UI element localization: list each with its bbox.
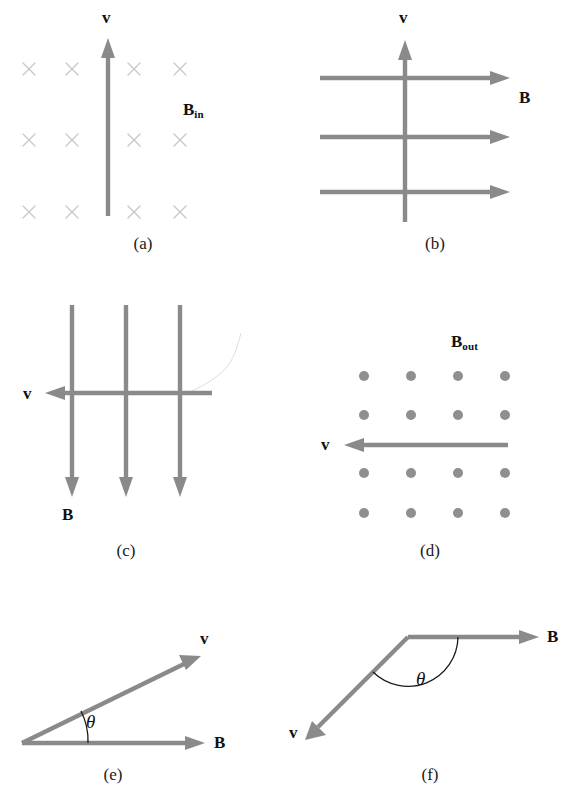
field-label-b: B xyxy=(547,627,558,647)
field-label-base: B xyxy=(451,332,462,351)
field-label-subscript: in xyxy=(194,108,204,120)
velocity-label-b: v xyxy=(399,8,408,28)
panel-e: v B θ (e) xyxy=(0,555,287,796)
field-arrows-down xyxy=(65,305,187,497)
velocity-label-e: v xyxy=(200,629,209,649)
velocity-label-a: v xyxy=(102,8,111,28)
angle-label-theta: θ xyxy=(86,711,95,733)
panel-b: v B (b) xyxy=(287,0,574,265)
velocity-arrow-left xyxy=(344,438,508,452)
caption-b: (b) xyxy=(405,234,465,254)
panel-c-graphic xyxy=(0,265,287,555)
caption-e: (e) xyxy=(83,765,143,785)
physics-figure: v Bin (a) v B (b) xyxy=(0,0,574,796)
field-label-b-out: Bout xyxy=(451,332,478,352)
velocity-vector-v xyxy=(22,655,201,743)
scan-artifact xyxy=(190,333,241,392)
velocity-arrow-up xyxy=(398,40,412,222)
velocity-arrow-up xyxy=(101,38,115,216)
field-vector-b xyxy=(408,630,539,644)
field-label-b: B xyxy=(62,505,73,525)
panel-d-graphic xyxy=(287,265,574,555)
field-label-subscript: out xyxy=(462,340,478,352)
caption-a: (a) xyxy=(113,234,173,254)
panel-e-graphic xyxy=(0,555,287,796)
velocity-label-f: v xyxy=(289,723,298,743)
panel-f: v B θ (f) xyxy=(287,555,574,796)
panel-f-graphic xyxy=(287,555,574,796)
velocity-label-d: v xyxy=(321,435,330,455)
field-label-b-in: Bin xyxy=(183,100,204,120)
velocity-vector-v xyxy=(305,637,408,740)
panel-a: v Bin (a) xyxy=(0,0,287,265)
caption-f: (f) xyxy=(400,765,460,785)
velocity-label-c: v xyxy=(23,384,32,404)
angle-label-theta: θ xyxy=(416,668,425,690)
field-arrows-right xyxy=(320,71,510,199)
panel-b-graphic xyxy=(287,0,574,265)
field-vector-b xyxy=(22,736,205,750)
field-crosses-into-page xyxy=(23,63,186,218)
panel-a-graphic xyxy=(0,0,287,265)
field-label-base: B xyxy=(183,100,194,119)
field-label-b: B xyxy=(519,88,530,108)
panel-d: v Bout (d) xyxy=(287,265,574,555)
panel-c: v B (c) xyxy=(0,265,287,555)
field-label-b: B xyxy=(214,733,225,753)
